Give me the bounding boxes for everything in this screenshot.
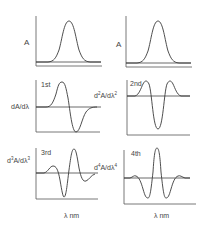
ylabel-third: d3A/dλ3	[7, 157, 30, 164]
ylabel-zero-right: A	[116, 41, 121, 49]
xlabel-right: λ nm	[154, 212, 169, 219]
axis-zero-right	[126, 16, 192, 67]
derivative-spectra-figure: A A dA/dλ d2A/dλ2 d3A/dλ3 d4A/dλ4 1st 2n…	[0, 0, 207, 231]
ylabel-second: d2A/dλ2	[94, 92, 117, 99]
axis-zero-left	[36, 16, 102, 66]
spectra-plots	[0, 0, 207, 231]
ylabel-zero-left: A	[24, 39, 29, 47]
order-label-second: 2nd	[130, 80, 142, 87]
order-label-third: 3rd	[41, 149, 51, 156]
ylabel-first: dA/dλ	[11, 103, 29, 110]
order-label-fourth: 4th	[131, 150, 141, 157]
curve-second	[127, 81, 190, 129]
curve-zero-right	[126, 21, 191, 63]
xlabel-left: λ nm	[64, 212, 79, 219]
order-label-first: 1st	[41, 81, 50, 88]
axis-second	[127, 80, 190, 135]
ylabel-fourth: d4A/dλ4	[94, 164, 117, 171]
curve-zero-left	[36, 21, 101, 62]
